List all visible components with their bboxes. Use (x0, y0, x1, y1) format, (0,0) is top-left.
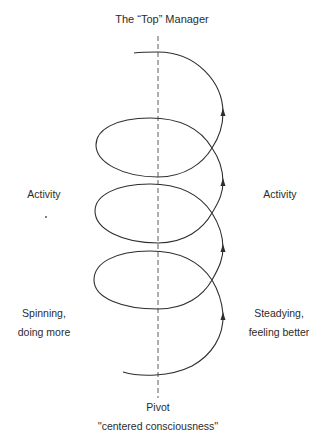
arrowhead-icon (221, 108, 226, 116)
left-state-line-1: Spinning, (6, 304, 82, 323)
right-state-line-2: feeling better (240, 323, 318, 342)
arrowhead-icon (221, 244, 226, 252)
right-state-label: Steadying, feeling better (240, 304, 318, 342)
stray-dot (45, 216, 47, 218)
pivot-sublabel: ''centered consciousness'' (78, 420, 238, 432)
right-activity-label: Activity (250, 188, 310, 200)
diagram-title: The “Top” Manager (0, 13, 324, 25)
arrowhead-icon (221, 312, 226, 320)
left-state-line-2: doing more (6, 323, 82, 342)
arrowhead-icon (221, 178, 226, 186)
right-state-line-1: Steadying, (240, 304, 318, 323)
spiral-path (94, 52, 223, 375)
top-manager-diagram: The “Top” Manager Activity Activity Spin… (0, 0, 324, 440)
left-activity-label: Activity (14, 188, 74, 200)
left-state-label: Spinning, doing more (6, 304, 82, 342)
pivot-label: Pivot (98, 401, 218, 413)
spiral-graphic (0, 0, 324, 440)
